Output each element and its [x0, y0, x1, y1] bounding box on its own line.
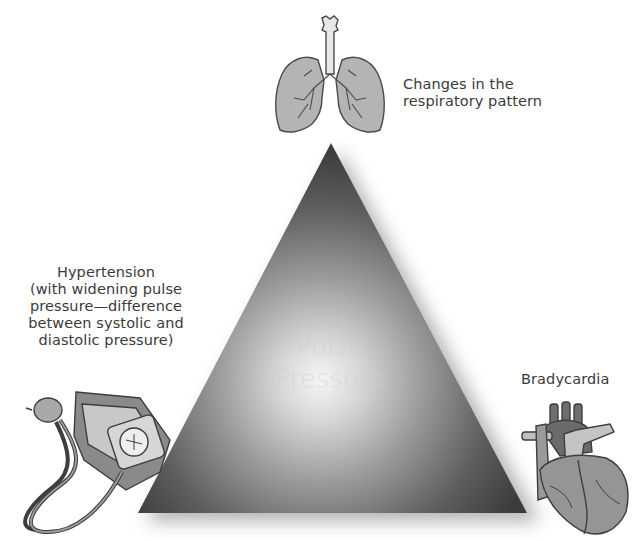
respiratory-label: Changes in the respiratory pattern — [403, 76, 563, 110]
faint-center-label: Pulse — [296, 331, 364, 361]
bradycardia-label: Bradycardia — [521, 371, 611, 388]
hypertension-label: Hypertension (with widening pulse pressu… — [18, 264, 194, 349]
blood-pressure-cuff-icon — [10, 380, 180, 540]
heart-icon — [520, 400, 640, 540]
svg-text:Pressure: Pressure — [274, 364, 385, 394]
lungs-icon — [268, 14, 394, 138]
